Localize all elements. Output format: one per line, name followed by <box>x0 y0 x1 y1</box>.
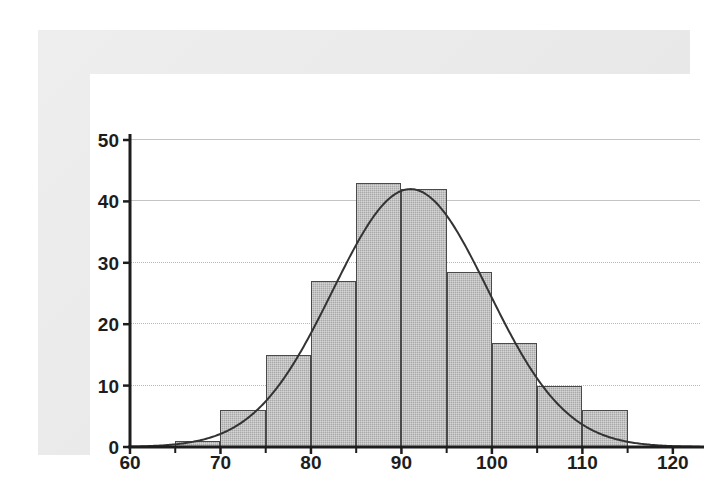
histogram-bar <box>537 386 582 447</box>
x-tick-label-80: 80 <box>281 453 341 472</box>
y-tick-label-10: 10 <box>85 377 119 396</box>
histogram-bar <box>582 410 627 447</box>
figure-panel: 01020304050 60708090100110120 <box>38 30 690 455</box>
histogram-bar <box>447 272 492 447</box>
y-tick-label-30: 30 <box>85 254 119 273</box>
y-tick-label-50: 50 <box>85 131 119 150</box>
histogram-bar <box>311 281 356 447</box>
x-tick-label-90: 90 <box>371 453 431 472</box>
y-tick-label-40: 40 <box>85 192 119 211</box>
plot-canvas: 01020304050 60708090100110120 <box>90 74 714 471</box>
x-tick-label-120: 120 <box>643 453 703 472</box>
gridline-y-50 <box>130 139 700 141</box>
histogram-bar <box>220 410 265 447</box>
histogram-bar <box>492 343 537 447</box>
chart-screenshot: 01020304050 60708090100110120 <box>0 0 714 477</box>
plot-area <box>90 74 714 471</box>
x-tick-label-60: 60 <box>100 453 160 472</box>
x-tick-label-70: 70 <box>190 453 250 472</box>
histogram-bar <box>356 183 401 447</box>
y-tick-label-20: 20 <box>85 315 119 334</box>
histogram-bar <box>266 355 311 447</box>
x-tick-label-110: 110 <box>552 453 612 472</box>
histogram-bar <box>175 441 220 447</box>
x-tick-label-100: 100 <box>462 453 522 472</box>
histogram-bar <box>401 189 446 447</box>
